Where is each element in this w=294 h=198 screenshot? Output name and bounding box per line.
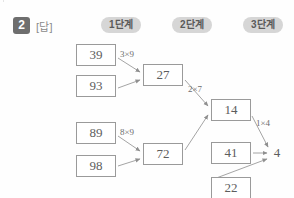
diagram-node-n22: 22 xyxy=(211,177,251,198)
edge-label-n27-n14: 2×7 xyxy=(188,84,202,94)
edge-89-72 xyxy=(118,136,140,151)
diagram-node-n72: 72 xyxy=(143,143,183,165)
edge-label-n14-n4: 1×4 xyxy=(256,118,270,128)
edge-98-72 xyxy=(118,159,140,166)
diagram-node-n89: 89 xyxy=(76,122,116,144)
edge-label-n89-n72: 8×9 xyxy=(120,127,134,137)
edge-label-n39-n27: 3×9 xyxy=(120,49,134,59)
diagram-node-n27: 27 xyxy=(143,64,183,86)
edge-93-27 xyxy=(118,80,140,88)
worksheet-page: 2 [답] 1단계 2단계 3단계 3993899827721441224 3×… xyxy=(0,0,294,198)
diagram-node-n93: 93 xyxy=(76,75,116,97)
diagram-node-n41: 41 xyxy=(211,142,251,164)
edge-72-14 xyxy=(185,115,208,150)
diagram-node-n39: 39 xyxy=(76,44,116,66)
diagram-node-n14: 14 xyxy=(211,99,251,121)
diagram-node-n98: 98 xyxy=(76,155,116,177)
multiplication-flow-diagram: 3993899827721441224 3×98×92×71×4 xyxy=(0,0,294,198)
edge-39-27 xyxy=(118,58,140,72)
diagram-node-n4: 4 xyxy=(270,145,284,161)
